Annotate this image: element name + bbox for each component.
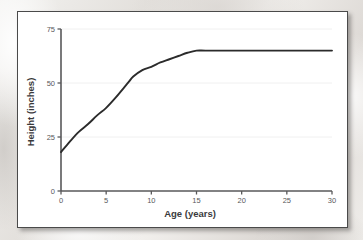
x-tick-label: 30	[328, 196, 336, 205]
x-tick-label: 10	[147, 196, 155, 205]
y-tick-label: 25	[47, 133, 55, 142]
x-tick-label: 5	[104, 196, 108, 205]
gridlines	[61, 29, 332, 137]
y-axis-ticks: 0255075	[47, 25, 61, 196]
x-tick-label: 15	[192, 196, 200, 205]
x-axis-ticks: 051015202530	[59, 191, 336, 205]
figure-card: 0255075 051015202530 Age (years) Height …	[17, 11, 348, 228]
x-axis-title: Age (years)	[164, 208, 216, 219]
y-axis-title: Height (inches)	[25, 78, 36, 147]
x-tick-label: 20	[237, 196, 245, 205]
x-tick-label: 0	[59, 196, 63, 205]
y-tick-label: 0	[51, 187, 55, 196]
y-tick-label: 50	[47, 79, 55, 88]
y-tick-label: 75	[47, 25, 55, 34]
x-tick-label: 25	[283, 196, 291, 205]
line-chart: 0255075 051015202530 Age (years) Height …	[18, 12, 349, 229]
plot-area: 0255075 051015202530 Age (years) Height …	[18, 12, 347, 227]
